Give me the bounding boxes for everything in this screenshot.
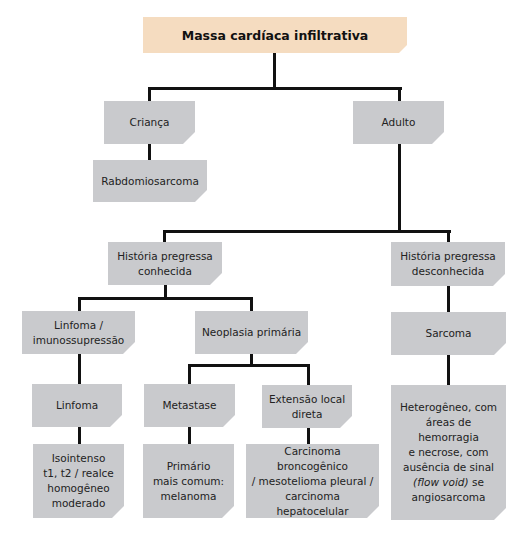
node-extensao-local-direta: Extensão local direta	[262, 385, 352, 428]
node-carcinoma-line2: / mesotelioma pleural /	[252, 474, 374, 489]
node-isointenso-line3: homogêneo	[47, 481, 109, 496]
node-sarcoma: Sarcoma	[391, 312, 506, 355]
node-sarcoma-label: Sarcoma	[425, 326, 471, 341]
node-extensao-line2: direta	[292, 407, 323, 422]
node-heterogeneo-line4: ausência de sinal	[403, 460, 494, 475]
node-metastase-label: Metastase	[162, 398, 216, 413]
node-primario-line1: Primário	[167, 459, 211, 474]
node-heterogeneo-line5: (flow void) se	[413, 475, 484, 490]
node-primario-line2: mais comum:	[153, 474, 224, 489]
connector-to-metastase	[188, 364, 191, 384]
node-historia-conhecida-line1: História pregressa	[117, 249, 213, 264]
connector-adulto-branch	[163, 230, 451, 233]
node-primario-line3: melanoma	[161, 489, 217, 504]
node-historia-conhecida: História pregressa conhecida	[108, 242, 222, 285]
connector-crianca-rabdo	[148, 144, 151, 160]
connector-metastase-primario	[188, 427, 191, 444]
node-metastase: Metastase	[144, 384, 235, 427]
connector-to-linfoma-imuno	[78, 297, 81, 311]
node-isointenso-line1: Isointenso	[52, 451, 106, 466]
node-root: Massa cardíaca infiltrativa	[143, 17, 407, 53]
node-historia-conhecida-line2: conhecida	[138, 264, 192, 279]
connector-root-down	[273, 53, 276, 90]
node-linfoma-imuno-line1: Linfoma /	[54, 318, 103, 333]
node-adulto-label: Adulto	[382, 115, 416, 130]
connector-root-branch	[148, 87, 402, 90]
connector-linfoma-imuno-linfoma	[78, 354, 81, 384]
node-historia-desconhecida-line1: História pregressa	[400, 249, 496, 264]
connector-conhecida-branch	[78, 297, 253, 300]
connector-to-historia-desconhecida	[447, 230, 450, 242]
connector-to-neoplasia	[250, 297, 253, 311]
node-adulto: Adulto	[353, 101, 444, 144]
node-neoplasia-primaria: Neoplasia primária	[195, 311, 308, 354]
connector-to-adulto	[398, 87, 401, 101]
connector-to-extensao	[307, 364, 310, 385]
node-extensao-line1: Extensão local	[269, 392, 345, 407]
node-carcinoma: Carcinoma broncogênico / mesotelioma ple…	[246, 444, 379, 518]
connector-desconhecida-sarcoma	[447, 286, 450, 312]
node-crianca-label: Criança	[130, 115, 170, 130]
connector-to-crianca	[148, 87, 151, 101]
node-neoplasia-primaria-label: Neoplasia primária	[202, 325, 301, 340]
node-isointenso-line4: moderado	[52, 496, 106, 511]
node-linfoma: Linfoma	[32, 384, 122, 427]
node-heterogeneo-flow-void: (flow void)	[413, 476, 469, 488]
node-heterogeneo-line1: Heterogêneo, com	[400, 400, 497, 415]
node-heterogeneo: Heterogêneo, com áreas de hemorragia e n…	[391, 385, 506, 520]
node-carcinoma-line3: carcinoma hepatocelular	[250, 489, 375, 519]
node-heterogeneo-line3: e necrose, com	[408, 445, 488, 460]
connector-extensao-carcinoma	[307, 428, 310, 444]
connector-sarcoma-heterogeneo	[447, 355, 450, 385]
node-heterogeneo-line2: áreas de hemorragia	[395, 415, 502, 445]
node-rabdomiosarcoma: Rabdomiosarcoma	[93, 160, 207, 202]
node-root-label: Massa cardíaca infiltrativa	[182, 28, 369, 43]
node-isointenso-line2: t1, t2 / realce	[43, 466, 114, 481]
connector-linfoma-isointenso	[78, 427, 81, 444]
node-historia-desconhecida-line2: desconhecida	[412, 264, 484, 279]
node-crianca: Criança	[104, 101, 195, 144]
node-historia-desconhecida: História pregressa desconhecida	[391, 242, 505, 286]
node-isointenso: Isointenso t1, t2 / realce homogêneo mod…	[33, 444, 124, 518]
node-carcinoma-line1: Carcinoma broncogênico	[250, 444, 375, 474]
connector-neoplasia-branch	[188, 364, 310, 367]
node-rabdomiosarcoma-label: Rabdomiosarcoma	[101, 174, 199, 189]
node-linfoma-label: Linfoma	[56, 398, 98, 413]
connector-adulto-down	[398, 144, 401, 233]
node-heterogeneo-line5-rest: se	[469, 476, 484, 488]
node-linfoma-imunossupressao: Linfoma / imunossupressão	[22, 311, 135, 354]
node-linfoma-imuno-line2: imunossupressão	[33, 333, 125, 348]
connector-to-historia-conhecida	[163, 230, 166, 242]
node-primario: Primário mais comum: melanoma	[143, 444, 234, 518]
node-heterogeneo-line6: angiosarcoma	[412, 490, 486, 505]
